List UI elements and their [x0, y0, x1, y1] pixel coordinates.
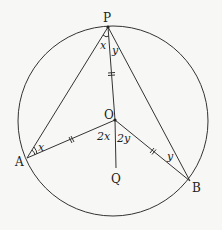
angle-label-x-at-A: x — [38, 141, 45, 154]
label-Q: Q — [111, 172, 121, 186]
segment-PB — [108, 27, 190, 181]
label-O: O — [104, 108, 114, 122]
segment-PA — [27, 27, 108, 158]
angle-label-y-at-B: y — [166, 150, 174, 163]
geometry-diagram: P O A B Q x y x y 2x 2y — [0, 0, 222, 230]
point-P-dot — [106, 25, 109, 28]
equal-mark-OA — [69, 136, 74, 143]
label-B: B — [192, 181, 201, 195]
segment-PO — [108, 27, 115, 120]
segment-OQ — [115, 120, 116, 168]
angle-label-2y-at-O: 2y — [116, 132, 131, 145]
angle-arc-P-x — [103, 35, 109, 37]
angle-label-2x-at-O: 2x — [96, 130, 111, 143]
angle-label-y-at-P: y — [111, 44, 119, 57]
angle-label-x-at-P: x — [100, 39, 107, 52]
angle-arc-A-x-inner — [32, 150, 35, 155]
label-A: A — [14, 155, 24, 169]
point-O-dot — [113, 118, 116, 121]
label-P: P — [103, 11, 111, 25]
